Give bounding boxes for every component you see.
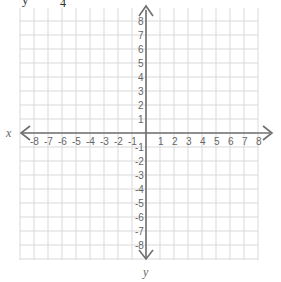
y-tick-label: 1: [138, 114, 144, 125]
y-tick-label: -6: [135, 212, 144, 223]
y-tick-label: 4: [138, 72, 144, 83]
x-tick-label: -6: [58, 136, 67, 147]
y-tick-label: -8: [135, 240, 144, 251]
y-tick-label: -7: [135, 226, 144, 237]
x-tick-label: 2: [172, 136, 178, 147]
x-tick-label: 7: [242, 136, 248, 147]
y-tick-label: -2: [135, 156, 144, 167]
y-tick-label: -5: [135, 198, 144, 209]
y-tick-label: 8: [138, 16, 144, 27]
x-tick-label: -7: [44, 136, 53, 147]
x-axis-label: x: [5, 126, 12, 140]
y-tick-label: 7: [138, 30, 144, 41]
x-tick-label: -8: [30, 136, 39, 147]
y-axis-label: y: [142, 265, 149, 279]
x-tick-label: 1: [158, 136, 164, 147]
x-tick-label: -5: [72, 136, 81, 147]
x-tick-label: 8: [256, 136, 262, 147]
x-tick-label: 4: [200, 136, 206, 147]
y-tick-label: 6: [138, 44, 144, 55]
y-tick-label: 2: [138, 100, 144, 111]
y-tick-label: -3: [135, 170, 144, 181]
x-tick-label: -2: [114, 136, 123, 147]
x-tick-label: 3: [186, 136, 192, 147]
x-tick-label: 6: [228, 136, 234, 147]
x-tick-label: -3: [100, 136, 109, 147]
x-tick-label: -4: [86, 136, 95, 147]
x-tick-label: 5: [214, 136, 220, 147]
y-tick-label: -4: [135, 184, 144, 195]
y-tick-label: -1: [135, 142, 144, 153]
y-tick-label: 3: [138, 86, 144, 97]
y-tick-label: 5: [138, 58, 144, 69]
coordinate-plane: xy-8-7-6-5-4-3-2-11234567812345678-1-2-3…: [0, 0, 281, 282]
